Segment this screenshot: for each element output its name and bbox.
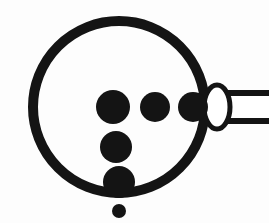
dot-column-low [103, 166, 135, 198]
dot-row-middle [140, 92, 170, 122]
dot-satellite [112, 204, 126, 218]
dot-row-left [96, 90, 130, 124]
figure-canvas [0, 0, 269, 223]
diagram-svg [0, 0, 269, 223]
dot-row-group [96, 90, 208, 124]
dot-row-right [178, 92, 208, 122]
dot-column-mid [100, 131, 132, 163]
